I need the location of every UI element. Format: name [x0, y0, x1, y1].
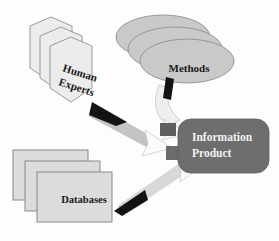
node-information-product[interactable]: Information Product: [178, 119, 269, 173]
node-databases[interactable]: Databases: [13, 150, 112, 222]
node-label-databases: Databases: [61, 194, 107, 205]
information-flow-diagram: Human Experts Methods Databases: [0, 0, 279, 241]
ellipse-front: [140, 39, 234, 83]
node-human-experts[interactable]: Human Experts: [30, 17, 99, 102]
junction-accent-upper: [160, 123, 176, 136]
diagram-canvas: Human Experts Methods Databases: [0, 0, 279, 241]
node-label-information-product-line1: Information: [192, 131, 253, 143]
node-methods[interactable]: Methods: [116, 15, 234, 83]
node-label-methods: Methods: [169, 62, 211, 74]
arrowhead-back-experts: [89, 102, 127, 126]
node-label-information-product-line2: Product: [192, 147, 232, 159]
information-product-box: [178, 119, 269, 173]
arrowhead-back-databases: [114, 190, 148, 216]
